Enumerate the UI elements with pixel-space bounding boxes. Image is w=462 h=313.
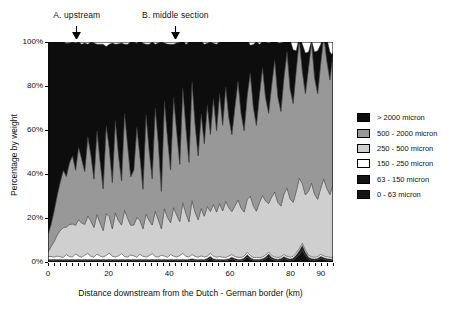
legend-item[interactable]: 0 - 63 micron <box>357 187 457 202</box>
annotation-label-b: B. middle section <box>142 10 208 20</box>
legend-label: 150 - 250 micron <box>377 159 433 168</box>
legend-item[interactable]: 150 - 250 micron <box>357 156 457 171</box>
legend-swatch <box>357 129 370 138</box>
legend-label: 500 - 2000 micron <box>377 129 437 138</box>
x-tick-mark <box>175 263 176 266</box>
x-tick-mark <box>121 263 122 266</box>
legend-item[interactable]: 500 - 2000 micron <box>357 125 457 140</box>
y-tick-label: 60% <box>10 125 43 134</box>
annotation-arrow-a <box>72 26 81 39</box>
x-tick-mark <box>321 263 322 266</box>
x-tick-mark <box>200 263 201 266</box>
legend-swatch <box>357 159 370 168</box>
x-tick-mark <box>333 263 334 266</box>
x-tick-mark <box>218 263 219 266</box>
y-tick-label: 100% <box>10 37 43 46</box>
x-tick-mark <box>303 263 304 266</box>
x-tick-mark <box>145 263 146 266</box>
x-tick-mark <box>236 263 237 266</box>
x-tick-mark <box>97 263 98 266</box>
y-tick-label: 20% <box>10 213 43 222</box>
x-tick-mark <box>169 263 170 266</box>
x-tick-mark <box>109 263 110 266</box>
x-tick-mark <box>224 263 225 266</box>
x-tick-mark <box>278 263 279 266</box>
legend-item[interactable]: 63 - 150 micron <box>357 172 457 187</box>
x-tick-mark <box>78 263 79 266</box>
x-tick-mark <box>309 263 310 266</box>
legend-label: 63 - 150 micron <box>377 175 429 184</box>
x-tick-mark <box>315 263 316 266</box>
x-tick-mark <box>90 263 91 266</box>
x-tick-mark <box>103 263 104 266</box>
x-tick-mark <box>133 263 134 266</box>
x-tick-mark <box>327 263 328 266</box>
x-tick-label: 60 <box>215 269 245 278</box>
x-tick-mark <box>187 263 188 266</box>
legend-label: 0 - 63 micron <box>377 190 421 199</box>
chart-figure: A. upstream B. middle section Percentage… <box>0 0 462 313</box>
x-tick-mark <box>163 263 164 266</box>
x-tick-mark <box>151 263 152 266</box>
x-tick-mark <box>297 263 298 266</box>
x-tick-mark <box>212 263 213 266</box>
x-tick-label: 0 <box>33 269 63 278</box>
annotation-arrow-b <box>171 26 180 39</box>
legend-swatch <box>357 190 370 199</box>
x-tick-mark <box>60 263 61 266</box>
x-tick-mark <box>127 263 128 266</box>
x-tick-mark <box>139 263 140 266</box>
legend-label: > 2000 micron <box>377 113 425 122</box>
x-tick-mark <box>84 263 85 266</box>
legend-swatch <box>357 144 370 153</box>
legend-item[interactable]: 250 - 500 micron <box>357 141 457 156</box>
y-tick-label: 80% <box>10 81 43 90</box>
x-tick-mark <box>254 263 255 266</box>
x-axis-title: Distance downstream from the Dutch - Ger… <box>78 288 302 298</box>
x-tick-mark <box>248 263 249 266</box>
x-tick-mark <box>291 263 292 266</box>
x-tick-mark <box>206 263 207 266</box>
stacked-area-svg <box>48 42 333 262</box>
x-tick-mark <box>194 263 195 266</box>
x-tick-mark <box>181 263 182 266</box>
x-tick-mark <box>272 263 273 266</box>
x-tick-label: 20 <box>94 269 124 278</box>
y-tick-label: 40% <box>10 169 43 178</box>
y-tick-label: 0% <box>10 257 43 266</box>
x-tick-mark <box>54 263 55 266</box>
legend-label: 250 - 500 micron <box>377 144 433 153</box>
x-tick-mark <box>230 263 231 266</box>
x-tick-mark <box>242 263 243 266</box>
legend-swatch <box>357 175 370 184</box>
x-tick-label: 40 <box>154 269 184 278</box>
x-tick-mark <box>284 263 285 266</box>
x-tick-label: 90 <box>306 269 336 278</box>
plot-area <box>48 42 333 262</box>
x-tick-mark <box>157 263 158 266</box>
x-tick-mark <box>66 263 67 266</box>
legend: > 2000 micron500 - 2000 micron250 - 500 … <box>357 110 457 202</box>
legend-item[interactable]: > 2000 micron <box>357 110 457 125</box>
x-tick-mark <box>260 263 261 266</box>
legend-swatch <box>357 113 370 122</box>
x-tick-mark <box>48 263 49 266</box>
x-tick-mark <box>266 263 267 266</box>
x-tick-mark <box>72 263 73 266</box>
annotation-label-a: A. upstream <box>53 10 100 20</box>
x-tick-label: 80 <box>276 269 306 278</box>
x-tick-mark <box>115 263 116 266</box>
